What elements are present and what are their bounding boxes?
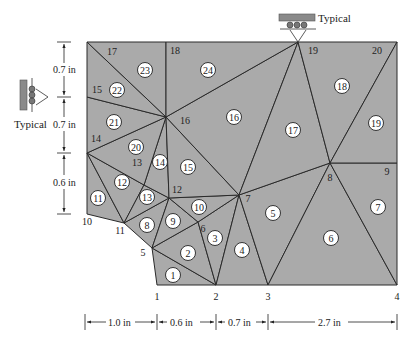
element-number: 10 [194, 202, 204, 213]
element-number: 15 [183, 162, 193, 173]
element-number: 6 [329, 233, 334, 244]
node-number: 4 [395, 291, 400, 302]
element-number: 24 [203, 65, 213, 76]
node-number: 7 [246, 193, 251, 204]
node-number: 17 [107, 46, 117, 57]
element-number: 11 [93, 193, 103, 204]
dimension-label: 2.7 in [318, 317, 341, 328]
node-number: 18 [170, 45, 180, 56]
element-number: 20 [131, 142, 141, 153]
element-number: 2 [186, 248, 191, 259]
node-number: 9 [385, 166, 390, 177]
element-number: 14 [155, 157, 165, 168]
node-number: 15 [92, 84, 102, 95]
node-number: 19 [308, 45, 318, 56]
element-number: 3 [213, 233, 218, 244]
element-number: 5 [271, 208, 276, 219]
dimension-label: 1.0 in [108, 317, 131, 328]
node-number: 3 [266, 291, 271, 302]
node-number: 5 [141, 247, 146, 258]
node-number: 14 [91, 133, 101, 144]
element-number: 12 [117, 177, 127, 188]
element-number: 21 [109, 117, 119, 128]
element-number: 13 [142, 192, 152, 203]
node-number: 16 [180, 115, 190, 126]
roller-support-top [279, 14, 316, 42]
node-number: 1 [155, 291, 160, 302]
roller-support-left [20, 78, 48, 112]
node-number: 13 [132, 157, 142, 168]
element-number: 8 [145, 220, 150, 231]
element-number: 16 [229, 112, 239, 123]
finite-element-mesh: 123456789101112131415161718192021222324 … [0, 0, 412, 343]
element-number: 17 [288, 125, 298, 136]
dimension-label: 0.7 in [53, 64, 76, 75]
node-number: 12 [172, 184, 182, 195]
element-number: 4 [240, 245, 245, 256]
element-number: 23 [140, 65, 150, 76]
node-number: 8 [328, 172, 333, 183]
node-number: 10 [82, 216, 92, 227]
element-number: 19 [371, 118, 381, 129]
element-number: 7 [376, 202, 381, 213]
dimension-label: 0.7 in [228, 317, 251, 328]
dimension-label: 0.6 in [170, 317, 193, 328]
element-number: 22 [112, 85, 122, 96]
element-number: 9 [171, 216, 176, 227]
element-number: 1 [171, 270, 176, 281]
dimension-label: 0.7 in [53, 119, 76, 130]
node-number: 2 [214, 291, 219, 302]
element-number: 18 [337, 81, 347, 92]
node-number: 6 [201, 223, 206, 234]
support-label-left: Typical [14, 118, 47, 130]
dimension-label: 0.6 in [53, 177, 76, 188]
node-number: 11 [115, 225, 125, 236]
node-number: 20 [372, 45, 382, 56]
support-label-top: Typical [318, 12, 351, 24]
